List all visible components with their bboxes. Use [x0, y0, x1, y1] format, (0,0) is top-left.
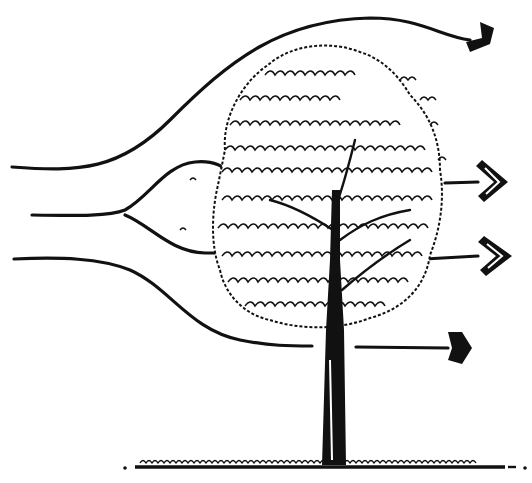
wind-tree-diagram — [0, 0, 532, 483]
hollow-arrow-upper-icon — [476, 160, 508, 202]
tree-canopy — [180, 46, 446, 328]
solid-arrow-bottom-icon — [448, 332, 472, 364]
solid-arrow-top-icon — [466, 22, 494, 52]
ground-line — [123, 461, 527, 470]
hollow-arrow-lower-icon — [478, 236, 512, 276]
